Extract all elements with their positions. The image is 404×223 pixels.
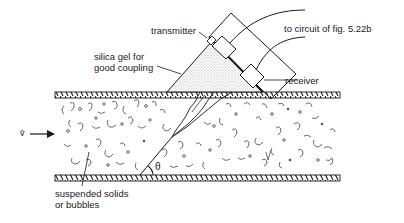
suspended-solids-label-line1: suspended solids [55, 188, 128, 199]
receiver-label: receiver [285, 75, 319, 86]
signal-cables [230, 10, 305, 70]
diagram-canvas: θ [0, 0, 404, 223]
silica-gel-label-line1: silica gel for [94, 51, 144, 62]
transmitter-label: transmitter [151, 25, 196, 36]
pipe-bottom-wall [55, 175, 340, 181]
suspended-solids-label-line2: or bubbles [55, 199, 99, 210]
suspended-particles [62, 100, 335, 170]
velocity-arrow [30, 130, 55, 138]
silica-gel-label-line2: good coupling [94, 62, 153, 73]
velocity-label: v̄ [20, 128, 25, 139]
to-circuit-label: to circuit of fig. 5.22b [284, 23, 372, 34]
ultrasonic-beams [140, 92, 232, 175]
angle-theta-label: θ [155, 161, 161, 172]
